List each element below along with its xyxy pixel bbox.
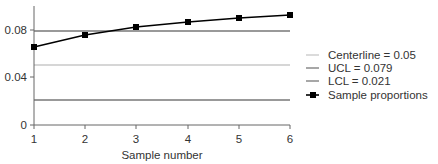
y-tick-label: 0.08 [5, 24, 27, 36]
data-point-marker [31, 44, 37, 50]
data-point-marker [82, 32, 88, 38]
data-point-marker [185, 19, 191, 25]
x-ticks: 1 2 3 4 5 6 [31, 125, 293, 145]
legend-label: Sample proportions [328, 89, 428, 101]
legend-marker-icon [310, 92, 316, 98]
legend-label: Centerline = 0.05 [328, 49, 416, 61]
legend-label: LCL = 0.021 [328, 75, 391, 87]
y-tick-label: 0 [21, 119, 27, 131]
y-tick-label: 0.04 [5, 71, 28, 83]
legend: Centerline = 0.05 UCL = 0.079 LCL = 0.02… [306, 49, 428, 101]
y-ticks: 0.08 0.04 0 [5, 24, 34, 131]
x-tick-label: 2 [82, 133, 88, 145]
x-tick-label: 6 [287, 133, 293, 145]
x-axis-title: Sample number [121, 149, 202, 161]
x-tick-label: 5 [236, 133, 242, 145]
data-point-marker [133, 24, 139, 30]
x-tick-label: 4 [185, 133, 192, 145]
x-tick-label: 1 [31, 133, 37, 145]
data-point-marker [236, 15, 242, 21]
x-tick-label: 3 [133, 133, 139, 145]
legend-label: UCL = 0.079 [328, 62, 392, 74]
data-point-marker [287, 12, 293, 18]
control-chart: 0.08 0.04 0 1 2 3 4 5 6 Sample number Ce… [0, 0, 438, 164]
